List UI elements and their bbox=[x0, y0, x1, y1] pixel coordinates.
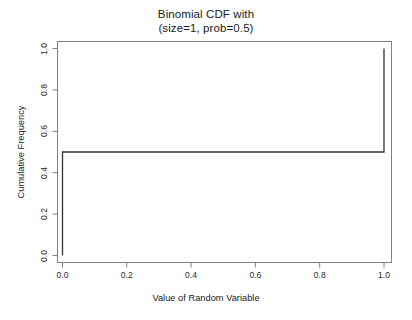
y-tick-label-0: 0.0 bbox=[39, 250, 49, 262]
y-tick-label-5: 1.0 bbox=[39, 43, 49, 55]
x-tick-label-5: 1.0 bbox=[378, 270, 390, 280]
x-axis-ticks bbox=[63, 263, 385, 268]
chart-figure: Binomial CDF with (size=1, prob=0.5) 0. bbox=[0, 0, 412, 320]
x-tick-label-1: 0.2 bbox=[121, 270, 133, 280]
x-tick-label-3: 0.6 bbox=[249, 270, 261, 280]
y-tick-label-3: 0.6 bbox=[39, 125, 49, 137]
x-tick-label-2: 0.4 bbox=[185, 270, 197, 280]
y-axis-title: Cumulative Frequency bbox=[16, 105, 26, 198]
y-tick-label-1: 0.2 bbox=[39, 208, 49, 220]
cdf-step-line bbox=[63, 49, 385, 256]
x-axis-title: Value of Random Variable bbox=[0, 293, 412, 303]
x-tick-label-0: 0.0 bbox=[57, 270, 69, 280]
y-tick-label-4: 0.8 bbox=[39, 84, 49, 96]
y-axis-ticks bbox=[53, 49, 58, 256]
x-tick-label-4: 0.8 bbox=[314, 270, 326, 280]
y-tick-label-2: 0.4 bbox=[39, 167, 49, 179]
